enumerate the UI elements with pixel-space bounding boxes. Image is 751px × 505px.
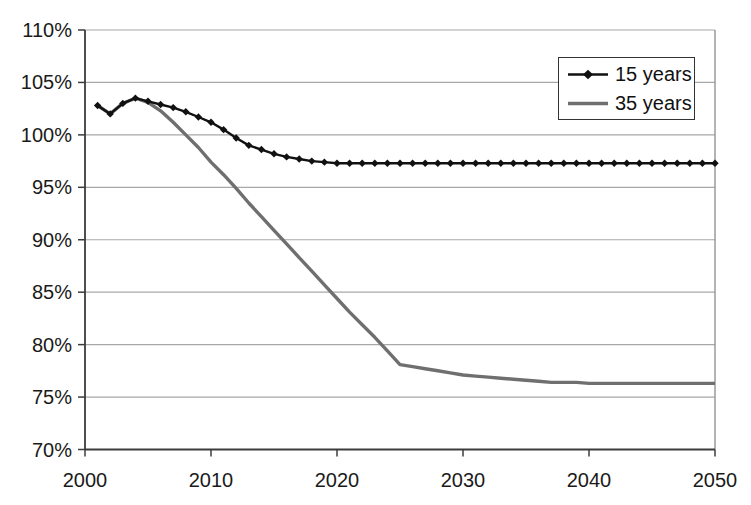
x-tick-label: 2020 [315,469,360,491]
y-tick-label: 105% [21,71,72,93]
x-tick-label: 2000 [63,469,108,491]
series-15-years-marker [333,159,340,166]
legend-15-years-line-marker-icon [567,67,609,82]
series-15-years-marker [182,108,189,115]
series-15-years-marker [648,159,655,166]
series-15-years-marker [346,159,353,166]
series-15-years-marker [510,159,517,166]
y-tick-label: 90% [32,229,72,251]
series-15-years-marker [674,159,681,166]
y-tick-label: 85% [32,281,72,303]
series-15-years-marker [485,159,492,166]
series-15-years-marker [548,159,555,166]
legend: 15 years 35 years [558,57,695,120]
x-tick-label: 2040 [567,469,612,491]
series-15-years-marker [396,159,403,166]
y-tick-label: 70% [32,439,72,461]
y-tick-label: 110% [22,19,72,41]
legend-35-years-line-icon [567,96,609,111]
series-35-years-line [98,98,715,383]
series-15-years-marker [711,159,718,166]
series-15-years-marker [270,150,277,157]
series-15-years-marker [535,159,542,166]
series-15-years-marker [296,155,303,162]
x-tick-label: 2030 [441,469,486,491]
x-tick-label: 2010 [189,469,234,491]
series-15-years-marker [308,157,315,164]
series-15-years-marker [686,159,693,166]
series-15-years-marker [195,113,202,120]
legend-item-15-years: 15 years [567,61,694,87]
series-15-years-marker [384,159,391,166]
series-15-years-marker [623,159,630,166]
series-15-years-marker [636,159,643,166]
series-15-years-marker [422,159,429,166]
y-tick-label: 100% [21,124,72,146]
series-15-years-marker [321,158,328,165]
series-15-years-marker [522,159,529,166]
series-15-years-marker [661,159,668,166]
series-15-years-marker [170,104,177,111]
x-tick-label: 2050 [693,469,738,491]
series-15-years-marker [585,159,592,166]
legend-label-15-years: 15 years [615,64,692,84]
series-15-years-marker [560,159,567,166]
chart: 110%105%100%95%90%85%80%75%70%2000201020… [0,0,751,505]
y-tick-label: 95% [32,176,72,198]
legend-label-35-years: 35 years [615,93,692,113]
y-tick-label: 75% [32,386,72,408]
series-15-years-marker [434,159,441,166]
series-15-years-marker [699,159,706,166]
legend-item-35-years: 35 years [567,90,694,116]
series-15-years-marker [258,146,265,153]
series-15-years-marker [598,159,605,166]
series-15-years-marker [611,159,618,166]
series-15-years-marker [371,159,378,166]
series-15-years-marker [472,159,479,166]
series-15-years-marker [359,159,366,166]
series-15-years-marker [283,153,290,160]
y-tick-label: 80% [32,334,72,356]
series-15-years-marker [497,159,504,166]
series-15-years-marker [409,159,416,166]
series-15-years-marker [459,159,466,166]
series-15-years-marker [573,159,580,166]
series-15-years-marker [447,159,454,166]
